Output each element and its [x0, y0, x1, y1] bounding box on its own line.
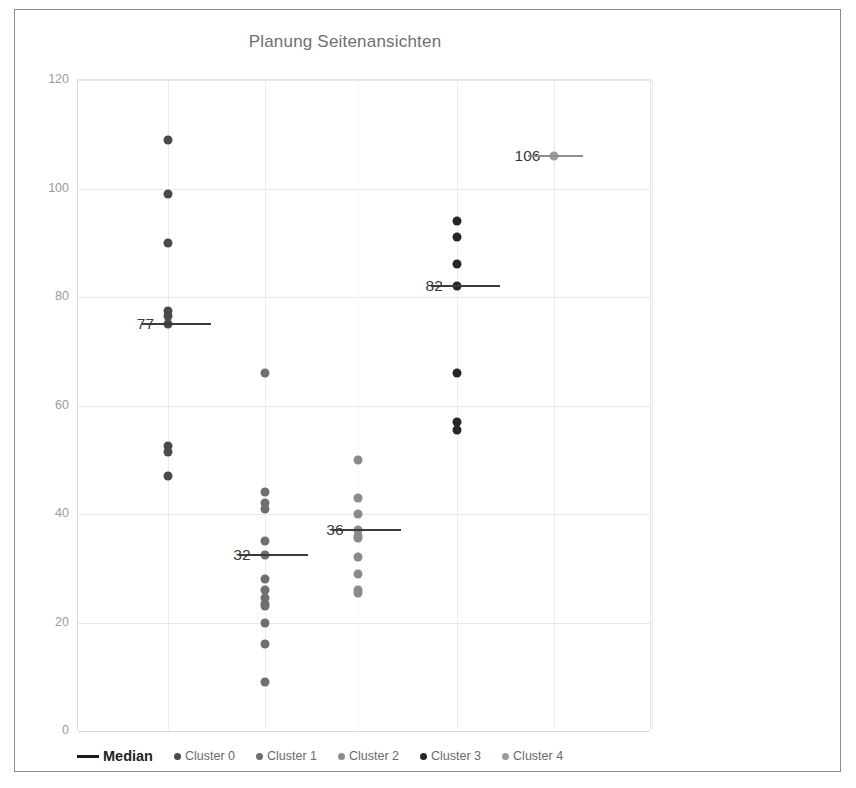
median-line	[448, 285, 500, 287]
legend-item-median[interactable]: Median	[77, 748, 153, 764]
y-axis-tick-label: 40	[23, 506, 69, 520]
gridline-vertical	[554, 80, 555, 730]
data-point[interactable]	[353, 569, 362, 578]
gridline-vertical	[358, 80, 359, 730]
legend-label: Cluster 1	[267, 749, 317, 763]
data-point[interactable]	[353, 510, 362, 519]
median-label-connector	[332, 529, 350, 531]
legend-item-cluster-4[interactable]: Cluster 4	[502, 749, 563, 763]
gridline-horizontal	[78, 731, 650, 732]
data-point[interactable]	[260, 488, 269, 497]
data-point[interactable]	[260, 640, 269, 649]
data-point[interactable]	[452, 368, 461, 377]
data-point[interactable]	[260, 678, 269, 687]
data-point[interactable]	[452, 233, 461, 242]
gridline-horizontal	[78, 514, 650, 515]
data-point[interactable]	[260, 504, 269, 513]
data-point[interactable]	[260, 602, 269, 611]
y-axis-tick-label: 100	[23, 181, 69, 195]
gridline-horizontal	[78, 406, 650, 407]
legend-item-cluster-0[interactable]: Cluster 0	[174, 749, 235, 763]
data-point[interactable]	[452, 217, 461, 226]
gridline-horizontal	[78, 189, 650, 190]
data-point[interactable]	[260, 537, 269, 546]
legend-label-median: Median	[103, 748, 153, 764]
data-point[interactable]	[164, 135, 173, 144]
data-point[interactable]	[353, 534, 362, 543]
data-point[interactable]	[164, 189, 173, 198]
data-point[interactable]	[353, 493, 362, 502]
legend-marker-dot-icon	[256, 753, 263, 760]
median-label-connector	[239, 554, 257, 556]
median-line	[159, 323, 211, 325]
data-point[interactable]	[164, 238, 173, 247]
y-axis-tick-label: 60	[23, 398, 69, 412]
y-axis-tick-label: 80	[23, 289, 69, 303]
chart-legend: Median Cluster 0Cluster 1Cluster 2Cluste…	[77, 744, 677, 768]
legend-marker-dot-icon	[174, 753, 181, 760]
data-point[interactable]	[353, 553, 362, 562]
gridline-horizontal	[78, 297, 650, 298]
median-label-connector	[142, 323, 160, 325]
plot-area: 77323682106	[77, 79, 651, 730]
data-point[interactable]	[353, 588, 362, 597]
gridline-horizontal	[78, 623, 650, 624]
median-line	[349, 529, 401, 531]
legend-label: Cluster 0	[185, 749, 235, 763]
data-point[interactable]	[260, 575, 269, 584]
data-point[interactable]	[260, 618, 269, 627]
legend-marker-dot-icon	[338, 753, 345, 760]
legend-item-cluster-1[interactable]: Cluster 1	[256, 749, 317, 763]
legend-marker-dot-icon	[420, 753, 427, 760]
data-point[interactable]	[164, 447, 173, 456]
gridline-horizontal	[78, 80, 650, 81]
y-axis-tick-label: 120	[23, 72, 69, 86]
gridline-vertical	[265, 80, 266, 730]
median-line	[545, 155, 583, 157]
gridline-vertical	[457, 80, 458, 730]
legend-label: Cluster 2	[349, 749, 399, 763]
gridline-vertical	[168, 80, 169, 730]
gridline-vertical	[652, 80, 653, 730]
scanned-page-frame: Planung Seitenansichten 020406080100120 …	[14, 9, 841, 772]
data-point[interactable]	[260, 368, 269, 377]
median-line	[256, 554, 308, 556]
median-line-icon	[77, 755, 99, 758]
y-axis-tick-labels: 020406080100120	[15, 79, 69, 730]
data-point[interactable]	[452, 425, 461, 434]
y-axis-tick-label: 20	[23, 615, 69, 629]
y-axis-tick-label: 0	[23, 723, 69, 737]
chart-title: Planung Seitenansichten	[15, 32, 675, 52]
median-label-connector	[431, 285, 449, 287]
legend-label: Cluster 3	[431, 749, 481, 763]
legend-item-cluster-3[interactable]: Cluster 3	[420, 749, 481, 763]
data-point[interactable]	[353, 455, 362, 464]
data-point[interactable]	[452, 260, 461, 269]
legend-item-cluster-2[interactable]: Cluster 2	[338, 749, 399, 763]
data-point[interactable]	[164, 472, 173, 481]
legend-marker-dot-icon	[502, 753, 509, 760]
median-label-connector	[528, 155, 546, 157]
legend-label: Cluster 4	[513, 749, 563, 763]
